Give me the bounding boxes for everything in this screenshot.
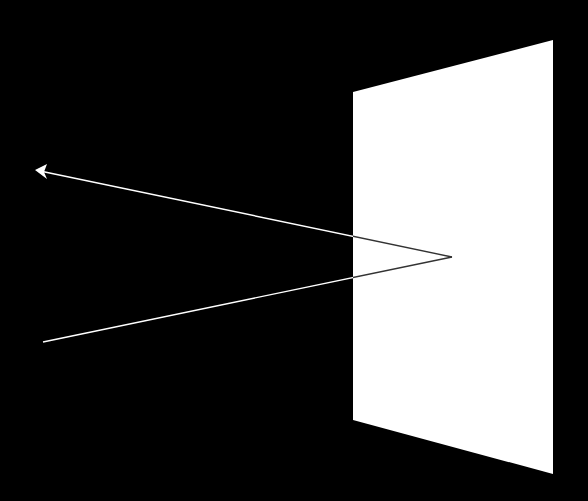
reflection-diagram: [0, 0, 588, 501]
mirror-plane: [353, 40, 553, 474]
